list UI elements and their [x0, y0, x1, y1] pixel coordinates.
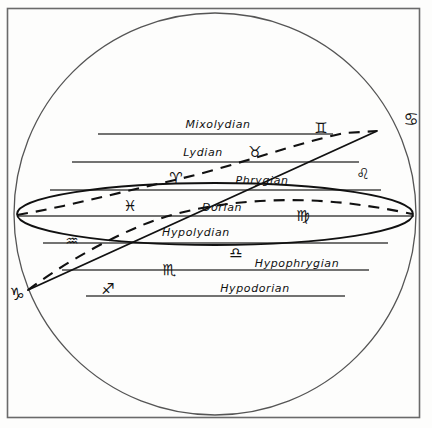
- horizon-ellipse: [17, 183, 413, 245]
- celestial-sphere-circle: [14, 13, 416, 415]
- diagram-sheet: MixolydianLydianPhrygianDorianHypolydian…: [0, 0, 432, 428]
- dashed-ecliptic-upper: [17, 131, 377, 215]
- ecliptic-line: [28, 131, 377, 290]
- celestial-sphere-diagram: [0, 0, 432, 428]
- mode-parallel-lines: [17, 134, 414, 296]
